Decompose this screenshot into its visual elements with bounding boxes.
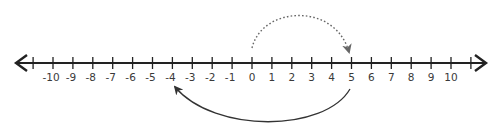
tick-label: 0	[249, 71, 256, 83]
tick-label: 8	[408, 71, 415, 83]
tick-label: -1	[225, 71, 235, 83]
tick-label: -10	[42, 71, 59, 83]
tick-label: 10	[444, 71, 457, 83]
tick-label: -7	[105, 71, 115, 83]
tick-label: 9	[428, 71, 435, 83]
tick-label: -4	[165, 71, 176, 83]
jump-arrow-5-to-minus-4	[175, 87, 350, 122]
tick-label: 4	[328, 71, 335, 83]
tick-label: -9	[66, 71, 76, 83]
tick-labels: -10-9-8-7-6-5-4-3-2-1012345678910	[42, 71, 457, 83]
tick-label: 2	[288, 71, 295, 83]
jump-arrow-0-to-5	[252, 16, 349, 53]
tick-label: 7	[388, 71, 395, 83]
tick-label: -2	[205, 71, 215, 83]
tick-label: 3	[308, 71, 315, 83]
tick-label: 5	[348, 71, 355, 83]
tick-label: 6	[368, 71, 375, 83]
tick-label: -5	[145, 71, 155, 83]
tick-label: -3	[185, 71, 195, 83]
tick-label: -8	[86, 71, 96, 83]
tick-label: -6	[125, 71, 136, 83]
tick-label: 1	[269, 71, 276, 83]
number-line-diagram: -10-9-8-7-6-5-4-3-2-1012345678910	[0, 0, 500, 131]
